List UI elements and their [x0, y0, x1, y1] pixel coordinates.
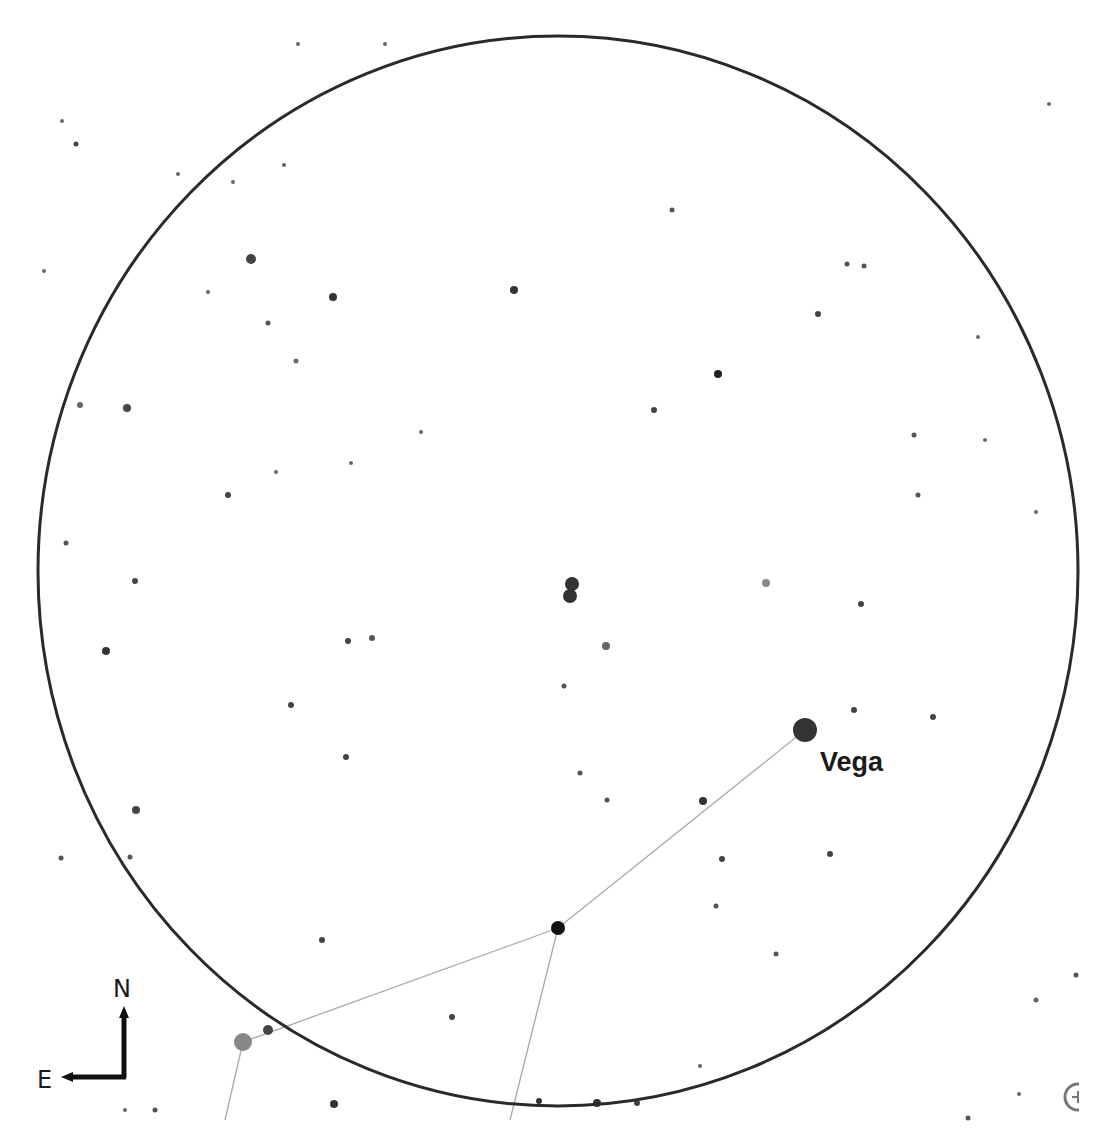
star: [369, 635, 375, 641]
star: [536, 1098, 542, 1104]
constellation-lines: [225, 730, 805, 1120]
star: [1074, 973, 1079, 978]
star: [294, 359, 299, 364]
star-label: Vega: [820, 747, 884, 777]
star: [1034, 510, 1038, 514]
star-labels: Vega: [820, 747, 884, 777]
star: [345, 638, 351, 644]
star: [858, 601, 864, 607]
star: [774, 952, 779, 957]
star: [128, 855, 133, 860]
star: [562, 684, 567, 689]
star: [132, 806, 140, 814]
star: [225, 492, 231, 498]
star: [266, 321, 271, 326]
star-field: [42, 42, 1079, 1121]
star: [419, 430, 423, 434]
star-chart: Vega N E: [0, 0, 1114, 1147]
star: [319, 937, 325, 943]
star: [206, 290, 210, 294]
star: [383, 42, 387, 46]
star: [983, 438, 987, 442]
star: [449, 1014, 455, 1020]
star: [59, 856, 64, 861]
constellation-line: [225, 1042, 243, 1120]
star: [42, 269, 46, 273]
star: [930, 714, 936, 720]
star: [827, 851, 833, 857]
star: [330, 1100, 338, 1108]
east-arrowhead-icon: [61, 1072, 73, 1082]
star: [1047, 102, 1051, 106]
star: [176, 172, 180, 176]
star: [1034, 998, 1039, 1003]
star: [651, 407, 657, 413]
star: [976, 335, 980, 339]
star: [551, 921, 565, 935]
field-of-view-circle: [38, 36, 1078, 1106]
star: [274, 470, 278, 474]
star: [578, 771, 583, 776]
star: [74, 142, 79, 147]
star: [845, 262, 850, 267]
constellation-line: [558, 730, 805, 928]
star: [296, 42, 300, 46]
star: [123, 404, 131, 412]
star: [102, 647, 110, 655]
compass-north-label: N: [113, 975, 131, 1003]
star: [605, 798, 610, 803]
star-vega: [793, 718, 817, 742]
star: [349, 461, 353, 465]
star: [966, 1116, 971, 1121]
star: [851, 707, 857, 713]
star: [60, 119, 64, 123]
star: [862, 264, 867, 269]
star: [343, 754, 349, 760]
star: [123, 1108, 127, 1112]
star: [288, 702, 294, 708]
star: [916, 493, 921, 498]
star: [565, 577, 579, 591]
star: [329, 293, 337, 301]
star: [282, 163, 286, 167]
star: [602, 642, 610, 650]
star: [670, 208, 675, 213]
compass-east-label: E: [37, 1066, 52, 1094]
star: [153, 1108, 158, 1113]
telrad-reticle-icon: [1065, 1084, 1091, 1110]
star: [1017, 1092, 1021, 1096]
star: [263, 1025, 273, 1035]
star: [762, 579, 770, 587]
north-arrowhead-icon: [119, 1006, 129, 1018]
star: [698, 1064, 702, 1068]
constellation-line: [510, 928, 558, 1120]
star: [714, 904, 719, 909]
constellation-line: [243, 928, 558, 1042]
star: [132, 578, 138, 584]
bottom-margin: [0, 1121, 1114, 1147]
star: [510, 286, 518, 294]
compass-rose: N E: [37, 975, 131, 1094]
star: [77, 402, 83, 408]
star: [64, 541, 69, 546]
star: [815, 311, 821, 317]
star: [719, 856, 725, 862]
star: [231, 180, 235, 184]
star: [912, 433, 917, 438]
star: [246, 254, 256, 264]
star: [699, 797, 707, 805]
star: [714, 370, 722, 378]
star: [563, 589, 577, 603]
star: [234, 1033, 252, 1051]
